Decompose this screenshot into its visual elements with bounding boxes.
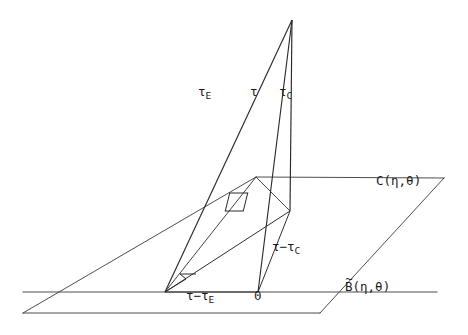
label-tau-base: τ <box>250 84 258 99</box>
label-c-eta-theta-text: C(η,θ) <box>376 173 421 188</box>
vertical-face-top <box>256 177 290 211</box>
label-origin-text: 0 <box>254 288 262 303</box>
plane-left-edge <box>23 177 256 313</box>
label-tau-minus-tau-c-base: τ−τ <box>272 239 295 254</box>
label-tau-minus-tau-e: τ−τE <box>186 290 214 305</box>
label-tau-minus-tau-c: τ−τC <box>272 241 300 256</box>
label-origin: 0 <box>254 290 262 303</box>
label-tau-e: τE <box>198 86 211 101</box>
label-tau-c-base: τ <box>279 84 287 99</box>
tilde-accent-icon: ~ <box>345 273 353 286</box>
label-tau-e-base: τ <box>198 84 206 99</box>
label-tau-minus-tau-e-base: τ−τ <box>186 288 209 303</box>
label-tau-minus-tau-e-subscript: E <box>209 294 215 305</box>
label-tau-c-subscript: C <box>287 90 293 101</box>
label-b-tilde-eta-theta: ~B(η,θ) <box>345 281 390 294</box>
label-c-eta-theta: C(η,θ) <box>376 175 421 188</box>
diagram-root: τE τ τC τ−τC τ−τE 0 C(η,θ) ~B(η,θ) <box>0 0 468 335</box>
b-tilde-group: ~B(η,θ) <box>345 281 390 294</box>
ray-tau-c <box>290 20 292 211</box>
label-tau-c: τC <box>279 86 292 101</box>
label-tau: τ <box>250 86 258 99</box>
label-tau-e-subscript: E <box>206 90 212 101</box>
geometry-figure <box>0 0 468 335</box>
label-tau-minus-tau-c-subscript: C <box>295 245 301 256</box>
